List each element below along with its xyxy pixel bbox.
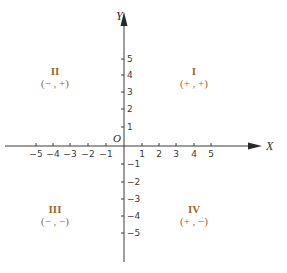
quadrant-signs: (+ , +): [180, 77, 208, 90]
x-tick-label: −5: [29, 149, 42, 159]
y-tick-label: −5: [127, 228, 140, 238]
quadrant-signs: (− , +): [41, 77, 69, 90]
y-tick-label: −1: [127, 159, 140, 169]
quadrant-numeral: I: [192, 65, 196, 77]
y-tick-label: 4: [127, 70, 133, 80]
quadrant-numeral: II: [51, 65, 60, 77]
x-tick-label: −4: [46, 149, 60, 159]
x-tick-label: 4: [191, 149, 197, 159]
y-tick-label: 2: [127, 104, 133, 114]
x-tick-label: −3: [63, 149, 76, 159]
x-axis-label: X: [265, 139, 274, 153]
x-tick-label: −2: [81, 149, 94, 159]
quadrant-signs: (+ , −): [180, 215, 208, 228]
y-tick-label: 1: [127, 122, 133, 132]
y-tick-label: −3: [127, 194, 140, 204]
x-axis-arrow-icon: [248, 143, 262, 150]
y-tick-label: 3: [127, 87, 133, 97]
coordinate-plane: Y X O −5 −4 −3 −2 −1 1 2 3 4 5 5: [0, 0, 287, 273]
quadrant-III: III (− , −): [41, 203, 69, 228]
quadrant-numeral: IV: [188, 203, 200, 215]
x-tick-label: 2: [156, 149, 162, 159]
quadrant-II: II (− , +): [41, 65, 69, 90]
quadrant-IV: IV (+ , −): [180, 203, 208, 228]
x-ticks: −5 −4 −3 −2 −1 1 2 3 4 5: [29, 143, 214, 159]
quadrant-numeral: III: [49, 203, 62, 215]
x-tick-label: 5: [208, 149, 214, 159]
x-tick-label: −1: [99, 149, 112, 159]
quadrant-signs: (− , −): [41, 215, 69, 228]
x-tick-label: 3: [173, 149, 179, 159]
origin-label: O: [113, 132, 121, 144]
y-tick-label: 5: [127, 54, 133, 64]
y-tick-label: −2: [127, 177, 140, 187]
y-tick-label: −4: [127, 211, 141, 221]
quadrant-I: I (+ , +): [180, 65, 208, 90]
x-tick-label: 1: [139, 149, 145, 159]
